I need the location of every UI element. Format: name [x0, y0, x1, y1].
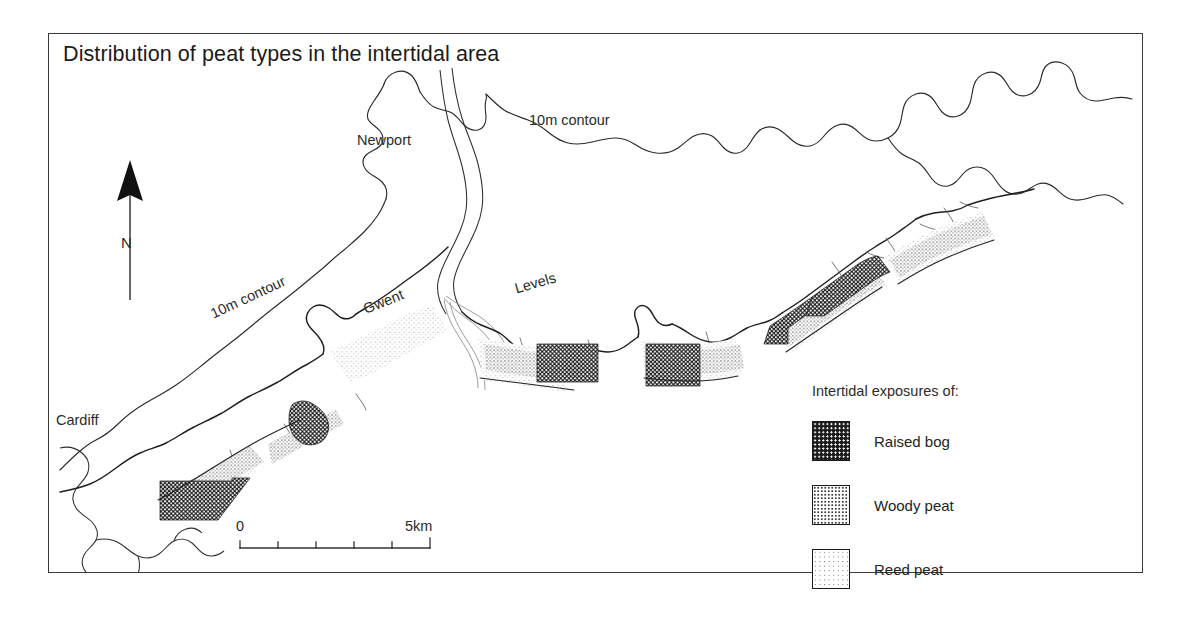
legend-item-raised-bog: Raised bog — [812, 418, 959, 464]
map-canvas — [0, 0, 1189, 620]
legend-swatch-woody-peat — [812, 485, 850, 525]
legend-label-reed-peat: Reed peat — [874, 561, 943, 578]
north-arrow-label: N — [121, 234, 132, 251]
river-usk — [437, 68, 482, 314]
map-label-cardiff: Cardiff — [56, 412, 98, 428]
scale-bar-end-label: 5km — [405, 518, 432, 534]
legend-item-reed-peat: Reed peat — [812, 546, 959, 592]
legend-item-woody-peat: Woody peat — [812, 482, 959, 528]
scale-bar — [240, 538, 430, 548]
north-arrow — [117, 160, 143, 300]
figure-title: Distribution of peat types in the intert… — [63, 42, 499, 67]
legend-swatch-reed-peat — [812, 549, 850, 589]
legend-title: Intertidal exposures of: — [812, 383, 959, 399]
contour-line-inland-west — [420, 92, 486, 130]
legend-swatch-raised-bog — [812, 421, 850, 461]
map-label-contour-north: 10m contour — [529, 112, 610, 128]
legend-label-woody-peat: Woody peat — [874, 497, 954, 514]
map-label-newport: Newport — [357, 132, 411, 148]
map-figure: Distribution of peat types in the intert… — [0, 0, 1189, 620]
scale-bar-start-label: 0 — [236, 518, 244, 534]
legend: Intertidal exposures of: Raised bog Wood… — [812, 383, 959, 610]
legend-label-raised-bog: Raised bog — [874, 433, 950, 450]
